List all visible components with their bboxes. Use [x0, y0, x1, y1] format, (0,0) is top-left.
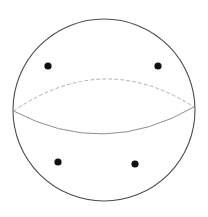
figure-canvas: [0, 0, 208, 217]
point-lower-right: [131, 160, 138, 167]
point-lower-left: [54, 158, 61, 165]
point-upper-right: [154, 62, 161, 69]
figure-background: [0, 0, 208, 217]
sphere-diagram: [0, 0, 208, 217]
point-upper-left: [44, 62, 51, 69]
